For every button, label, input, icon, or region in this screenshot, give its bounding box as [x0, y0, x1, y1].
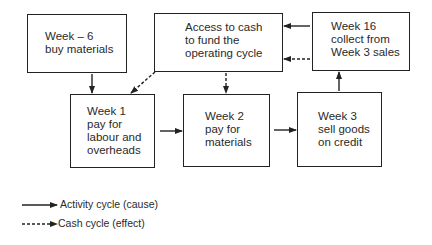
legend-activity-cycle: Activity cycle (cause): [60, 198, 158, 210]
node-access-cash-label: Access to cash to fund the operating cyc…: [185, 21, 262, 60]
node-week3-label: Week 3 sell goods on credit: [318, 110, 370, 149]
node-week1-label: Week 1 pay for labour and overheads: [87, 105, 141, 157]
node-week16-label: Week 16 collect from Week 3 sales: [331, 20, 400, 59]
node-week-minus6-label: Week – 6 buy materials: [45, 30, 113, 56]
node-week2-label: Week 2 pay for materials: [205, 110, 252, 149]
dashed-arrow-access-to-week1: [131, 72, 155, 93]
legend-cash-cycle: Cash cycle (effect): [58, 217, 145, 229]
